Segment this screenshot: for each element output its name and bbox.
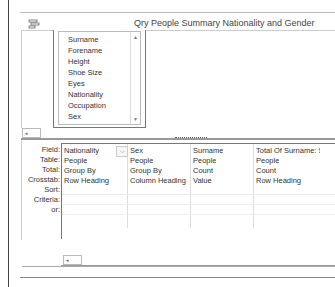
field-dropdown-button[interactable]: ⌵ [116, 146, 128, 157]
table-pane-left-border [21, 30, 22, 128]
row-label-sort: Sort: [44, 185, 60, 194]
field-list-item-forename[interactable]: Forename [68, 46, 102, 55]
grid-horizontal-scrollbar[interactable]: ◂ [63, 255, 82, 265]
design-grid[interactable]: Nationality ⌵ People Group By Row Headin… [61, 143, 335, 239]
grid-cell-total[interactable]: Group By [64, 166, 96, 175]
scroll-up-icon[interactable]: ▲ [132, 33, 139, 41]
window-top-divider [20, 12, 335, 13]
splitter-grip[interactable] [175, 137, 207, 139]
grid-cell-table[interactable]: People [256, 156, 279, 165]
grid-row-divider [62, 204, 335, 205]
query-design-icon [28, 19, 40, 29]
window-left-border [8, 0, 9, 287]
field-list-item-surname[interactable]: Surname [68, 35, 98, 44]
row-label-criteria: Criteria: [34, 195, 60, 204]
grid-cell-total[interactable]: Count [193, 166, 213, 175]
row-label-crosstab: Crosstab: [28, 175, 60, 184]
grid-column-nationality[interactable]: Nationality ⌵ People Group By Row Headin… [62, 144, 128, 228]
grid-cell-crosstab[interactable]: Column Heading [130, 176, 186, 185]
row-label-table: Table: [40, 155, 60, 164]
grid-cell-field[interactable]: Total Of Surname: Sur [256, 146, 320, 155]
field-list-item-height[interactable]: Height [68, 57, 90, 66]
grid-pane-left-border [21, 140, 22, 240]
scroll-left-icon[interactable]: ◂ [25, 129, 28, 137]
design-pane-bottom-border [22, 266, 335, 267]
field-list-scrollbar[interactable]: ▲ ▼ [130, 32, 140, 124]
grid-column-sex[interactable]: Sex People Group By Column Heading [128, 144, 191, 228]
field-list-item-shoe-size[interactable]: Shoe Size [68, 68, 102, 77]
grid-cell-crosstab[interactable]: Value [193, 176, 212, 185]
grid-cell-table[interactable]: People [193, 156, 216, 165]
scroll-down-icon[interactable]: ▼ [132, 115, 139, 123]
grid-cell-table[interactable]: People [130, 156, 153, 165]
field-list-item-sex[interactable]: Sex [68, 112, 81, 121]
grid-cell-field[interactable]: Sex [130, 146, 143, 155]
grid-cell-total[interactable]: Count [256, 166, 276, 175]
field-list-item-occupation[interactable]: Occupation [68, 101, 106, 110]
query-title: Qry People Summary Nationality and Gende… [134, 18, 315, 28]
grid-cell-field[interactable]: Surname [193, 146, 223, 155]
row-label-total: Total: [42, 165, 60, 174]
grid-cell-total[interactable]: Group By [130, 166, 162, 175]
row-label-field: Field: [42, 145, 60, 154]
window-bottom-divider [20, 277, 335, 278]
grid-column-total-of-surname[interactable]: Total Of Surname: Sur People Count Row H… [254, 144, 319, 228]
grid-row-divider [62, 214, 335, 215]
grid-cell-field[interactable]: Nationality [64, 146, 99, 155]
scroll-left-icon[interactable]: ◂ [66, 256, 69, 264]
field-list-item-nationality[interactable]: Nationality [68, 90, 103, 99]
row-label-or: or: [51, 205, 60, 214]
grid-cell-crosstab[interactable]: Row Heading [64, 176, 109, 185]
people-field-list[interactable]: Surname Forename Height Shoe Size Eyes N… [58, 31, 141, 125]
grid-row-divider [62, 194, 335, 195]
grid-cell-crosstab[interactable]: Row Heading [256, 176, 301, 185]
grid-cell-table[interactable]: People [64, 156, 87, 165]
field-list-item-eyes[interactable]: Eyes [68, 79, 85, 88]
table-pane-horizontal-scrollbar[interactable]: ◂ [22, 128, 41, 138]
grid-column-surname[interactable]: Surname People Count Value [191, 144, 254, 228]
